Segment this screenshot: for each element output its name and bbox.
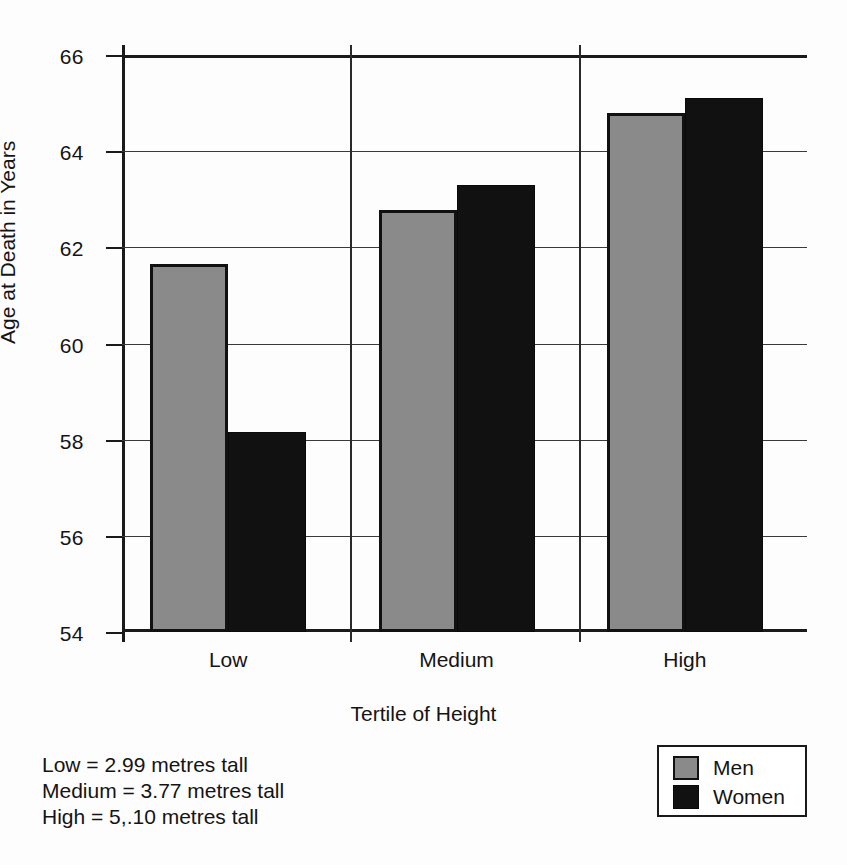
y-tick: 62 <box>106 247 122 249</box>
category-divider <box>350 45 352 642</box>
bar-women-medium <box>457 185 535 632</box>
bar-women-low <box>228 432 306 633</box>
bar-men-medium <box>379 210 457 632</box>
y-tick-label: 66 <box>60 45 84 69</box>
men-swatch <box>673 756 699 780</box>
bar-women-high <box>685 98 763 632</box>
note-line-2: Medium = 3.77 metres tall <box>42 778 284 804</box>
legend-box: MenWomen <box>657 745 807 817</box>
y-axis-title: Age at Death in Years <box>0 141 20 344</box>
y-tick-label: 64 <box>60 141 84 165</box>
legend-label-women: Women <box>713 785 785 809</box>
category-divider <box>579 45 581 642</box>
y-tick: 66 <box>106 55 122 57</box>
bar-chart-figure: 54565860626466 LowMediumHigh Age at Deat… <box>0 0 847 865</box>
x-category-label-high: High <box>663 648 706 672</box>
note-line-1: Low = 2.99 metres tall <box>42 752 284 778</box>
bar-men-low <box>150 264 228 632</box>
y-tick: 60 <box>106 344 122 346</box>
y-tick: 54 <box>106 632 122 634</box>
y-tick-label: 56 <box>60 526 84 550</box>
note-line-3: High = 5,.10 metres tall <box>42 804 284 830</box>
y-tick-label: 54 <box>60 622 84 646</box>
x-category-label-medium: Medium <box>419 648 494 672</box>
legend-item-men: Men <box>673 753 805 782</box>
y-tick: 64 <box>106 151 122 153</box>
plot-top-border <box>122 55 807 58</box>
plot-area: 54565860626466 <box>122 55 807 632</box>
y-tick: 56 <box>106 536 122 538</box>
legend-item-women: Women <box>673 782 805 811</box>
legend-label-men: Men <box>713 756 754 780</box>
y-tick-label: 58 <box>60 430 84 454</box>
chart-notes: Low = 2.99 metres tallMedium = 3.77 metr… <box>42 752 284 830</box>
y-tick: 58 <box>106 440 122 442</box>
y-tick-label: 60 <box>60 334 84 358</box>
x-axis-title: Tertile of Height <box>0 702 847 726</box>
women-swatch <box>673 785 699 809</box>
x-category-label-low: Low <box>209 648 248 672</box>
bar-men-high <box>607 113 685 632</box>
y-tick-label: 62 <box>60 237 84 261</box>
